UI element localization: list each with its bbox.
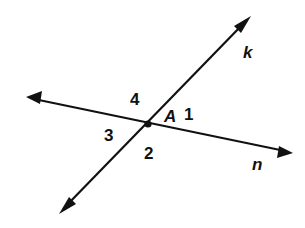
arrowhead-n-right-icon (277, 146, 293, 158)
arrowhead-n-left-icon (26, 91, 42, 104)
point-a-dot (144, 120, 151, 127)
angle-4-label: 4 (130, 90, 140, 109)
point-a-label: A (163, 107, 176, 126)
angle-2-label: 2 (144, 144, 153, 163)
line-n (26, 91, 293, 158)
line-k (59, 16, 251, 214)
line-k-label: k (243, 43, 254, 62)
intersecting-lines-diagram: k n A 1 2 3 4 (0, 0, 305, 228)
line-n-label: n (252, 155, 262, 174)
angle-3-label: 3 (104, 126, 113, 145)
angle-1-label: 1 (184, 105, 193, 124)
